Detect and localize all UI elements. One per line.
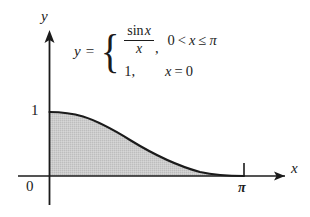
cond-1-variable-x: x <box>189 33 195 48</box>
numerator-variable-x: x <box>145 23 151 38</box>
case-1-comma: , <box>155 41 159 57</box>
formula-left-hand-side: y = <box>74 44 94 59</box>
fraction-denominator: x <box>133 41 145 57</box>
origin-label-0: 0 <box>26 178 34 195</box>
y-tick-label-1: 1 <box>31 102 39 119</box>
x-tick-label-pi: π <box>238 180 246 196</box>
piecewise-formula: y = { sin x x , 0 < x ≤ π <box>74 24 217 79</box>
cond-2-equals: = <box>175 64 183 79</box>
cond-1-less-equal: ≤ <box>198 33 206 48</box>
formula-case-2: 1, x = 0 <box>124 64 216 79</box>
cond-1-lower-bound: 0 <box>168 33 175 48</box>
cond-2-variable-x: x <box>165 64 171 79</box>
figure-canvas: y = { sin x x , 0 < x ≤ π <box>0 0 310 217</box>
shaded-area-under-curve <box>50 112 245 176</box>
x-axis-label: x <box>291 160 298 177</box>
case-1-condition: 0 < x ≤ π <box>168 33 217 48</box>
formula-cases: sin x x , 0 < x ≤ π 1, x = 0 <box>124 24 216 79</box>
formula-variable-y: y <box>74 44 81 59</box>
formula-brace: { <box>101 32 120 72</box>
case-2-value: 1, <box>124 64 135 79</box>
sin-function-name: sin <box>127 23 143 38</box>
y-axis-label: y <box>41 8 48 25</box>
cond-2-value-zero: 0 <box>186 64 193 79</box>
formula-case-1: sin x x , 0 < x ≤ π <box>124 24 216 56</box>
case-1-value: sin x x , <box>124 24 158 56</box>
fraction-sinx-over-x: sin x x <box>124 24 154 56</box>
formula-equals-sign: = <box>86 44 94 59</box>
cond-1-less-than: < <box>178 33 186 48</box>
case-2-condition: x = 0 <box>165 64 193 79</box>
fraction-numerator: sin x <box>124 24 154 41</box>
cond-1-upper-bound-pi: π <box>209 33 216 48</box>
